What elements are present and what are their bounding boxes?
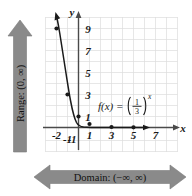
fraction-denominator: 3	[135, 107, 139, 116]
function-label-prefix: f(x) =	[98, 100, 123, 113]
data-point	[131, 125, 135, 129]
x-tick-label: 1	[87, 129, 93, 141]
data-point	[54, 26, 58, 30]
domain-label: Domain: (−∞, ∞)	[74, 172, 147, 184]
x-tick-label: 7	[153, 129, 159, 141]
y-tick-label: 5	[85, 67, 91, 79]
range-label: Range: (0, ∞)	[15, 64, 27, 122]
x-tick-label: 5	[131, 129, 137, 141]
x-axis-name: x	[179, 122, 186, 134]
data-point	[65, 92, 69, 96]
figure-container: Range: (0, ∞) Domain: (−∞, ∞) x y -2 -1 …	[0, 0, 192, 196]
exponent-x: x	[147, 92, 152, 101]
data-point	[109, 125, 113, 129]
data-point	[76, 114, 80, 118]
y-tick-label: 1	[85, 111, 91, 123]
fraction-numerator: 1	[135, 98, 139, 107]
y-tick-label: -1	[67, 133, 76, 145]
y-axis-name: y	[68, 6, 75, 18]
exponential-decay-graph: Range: (0, ∞) Domain: (−∞, ∞) x y -2 -1 …	[0, 0, 192, 196]
y-tick-label: 7	[85, 45, 91, 57]
x-tick-label: 3	[108, 129, 115, 141]
y-tick-label: 9	[85, 23, 91, 35]
figure-background	[0, 0, 192, 196]
data-point	[87, 122, 91, 126]
x-tick-label: -2	[52, 129, 62, 141]
y-tick-label: 3	[84, 89, 91, 101]
